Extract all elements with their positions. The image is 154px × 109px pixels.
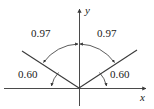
- label-lower-left-060: 0.60: [18, 69, 38, 80]
- upper-arc-right-half: [80, 44, 115, 63]
- x-axis-label: x: [140, 92, 145, 103]
- label-upper-right-097: 0.97: [97, 28, 117, 39]
- label-upper-left-097: 0.97: [31, 28, 51, 39]
- diagram-canvas: [0, 0, 154, 109]
- upper-arc-left-half: [44, 44, 79, 63]
- angle-diagram-figure: 0.97 0.97 0.60 0.60 y x: [0, 0, 154, 109]
- label-lower-right-060: 0.60: [110, 69, 130, 80]
- y-axis-label: y: [85, 5, 90, 16]
